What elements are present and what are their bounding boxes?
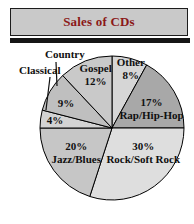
pie-slices — [40, 56, 184, 200]
pie-outside-label-classical: Classical — [19, 64, 61, 76]
chart-panel: Sales of CDs Other8%17%Rap/Hip-Hop30%Roc… — [0, 0, 194, 224]
pie-outside-label-country: Country — [45, 48, 85, 60]
pie-slice-label-country: 9% — [58, 97, 75, 109]
pie-slice-label-classical: 4% — [47, 114, 64, 126]
pie-chart-svg: Other8%17%Rap/Hip-Hop30%Rock/Soft Rock20… — [0, 0, 194, 224]
